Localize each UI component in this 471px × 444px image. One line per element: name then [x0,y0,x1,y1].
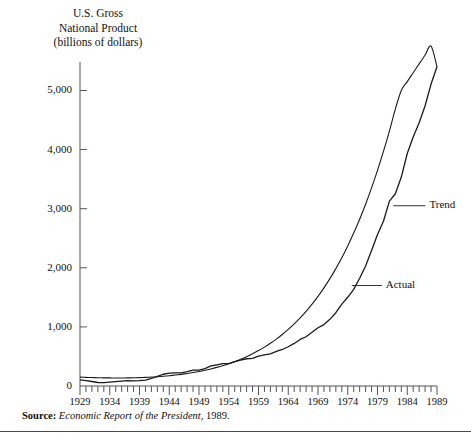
source-note: Source: Economic Report of the President… [22,410,230,421]
source-title: Economic Report of the President [59,410,201,421]
series-label-trend: Trend [429,198,455,210]
y-axis-tick-label: 2,000 [24,261,72,273]
y-axis-tick-label: 5,000 [24,83,72,95]
series-label-actual: Actual [386,278,415,290]
y-axis-tick-label: 4,000 [24,143,72,155]
y-axis-tick-label: 1,000 [24,320,72,332]
bottom-divider-rule [0,431,471,432]
x-axis-tick-label: 1989 [420,396,454,407]
source-year: , 1989. [201,410,230,421]
trend-line [80,46,437,378]
source-prefix: Source: [22,410,56,421]
chart-plot-area [0,0,471,444]
actual-line [80,67,437,383]
y-axis-tick-label: 3,000 [24,202,72,214]
gnp-chart-figure: U.S. Gross National Product (billions of… [0,0,471,444]
y-axis-tick-label: 0 [24,379,72,391]
chart-axis-title: U.S. Gross National Product (billions of… [28,6,168,50]
